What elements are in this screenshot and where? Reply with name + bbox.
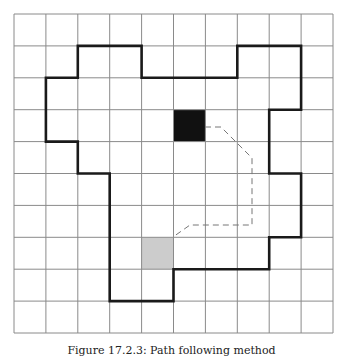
start-cell <box>174 110 206 142</box>
dashed-path <box>173 127 252 237</box>
grid-diagram <box>0 0 343 340</box>
goal-cell <box>142 237 174 269</box>
figure-caption: Figure 17.2.3: Path following method <box>0 344 343 357</box>
